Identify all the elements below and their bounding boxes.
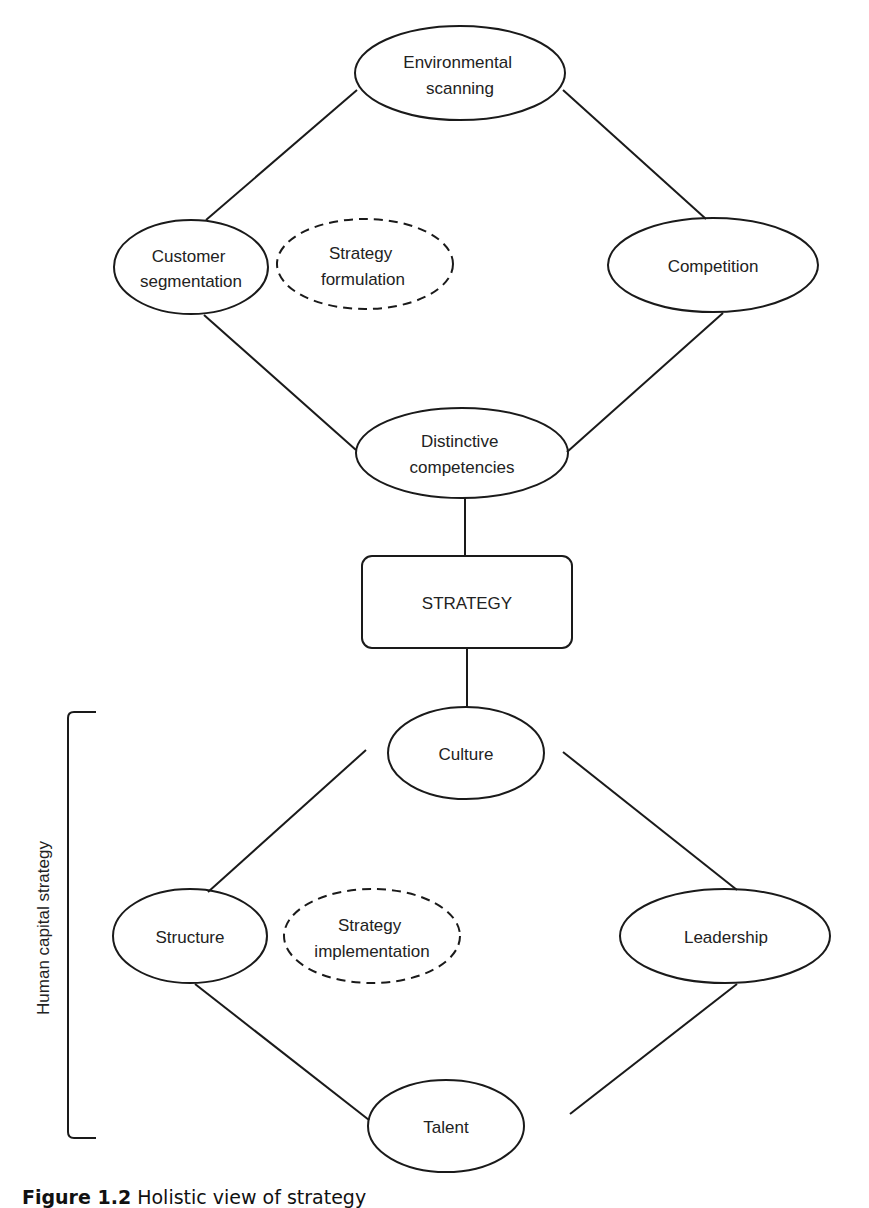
connector-line — [195, 984, 369, 1120]
label-distinctive-competencies-2: competencies — [410, 458, 515, 477]
connector-line — [204, 315, 356, 450]
node-strategy-implementation — [284, 889, 460, 983]
label-environmental-scanning-1: Environmental — [403, 53, 512, 72]
svg-text:Culture: Culture — [439, 745, 494, 764]
node-strategy-formulation — [277, 219, 453, 309]
connector-line — [563, 90, 706, 219]
svg-text:Talent: Talent — [423, 1118, 469, 1137]
connector-line — [563, 752, 737, 890]
node-environmental-scanning — [355, 26, 565, 120]
label-human-capital-strategy: Human capital strategy — [34, 841, 53, 1015]
svg-text:Human capital strategy: Human capital strategy — [34, 841, 53, 1015]
label-competition: Competition — [668, 257, 759, 276]
label-strategy-implementation-2: implementation — [314, 942, 429, 961]
caption-label: Figure 1.2 — [22, 1186, 131, 1208]
connector-line — [567, 313, 723, 452]
connector-line — [570, 984, 737, 1114]
label-customer-segmentation-2: segmentation — [140, 272, 242, 291]
svg-text:Distinctive competencies: Distinctive competencies — [410, 432, 515, 477]
connector-line — [208, 750, 366, 892]
label-culture: Culture — [439, 745, 494, 764]
label-environmental-scanning-2: scanning — [426, 79, 494, 98]
caption-text: Holistic view of strategy — [137, 1186, 366, 1208]
label-leadership: Leadership — [684, 928, 768, 947]
label-strategy: STRATEGY — [422, 594, 512, 613]
label-customer-segmentation-1: Customer — [152, 247, 226, 266]
svg-text:Customer segmentation: Customer segmentation — [140, 247, 242, 291]
human-capital-bracket — [68, 712, 96, 1138]
svg-text:Strategy formulation: Strategy formulation — [321, 244, 405, 289]
node-customer-segmentation — [114, 220, 268, 314]
svg-text:Strategy implementation: Strategy implementation — [314, 916, 429, 961]
svg-text:Competition: Competition — [668, 257, 759, 276]
svg-text:STRATEGY: STRATEGY — [422, 594, 512, 613]
connector-line — [206, 90, 357, 220]
svg-text:Leadership: Leadership — [684, 928, 768, 947]
label-strategy-formulation-1: Strategy — [329, 244, 393, 263]
label-strategy-implementation-1: Strategy — [338, 916, 402, 935]
node-distinctive-competencies — [356, 408, 568, 498]
svg-text:Environmental scanning: Environmental scanning — [403, 53, 516, 98]
svg-text:Structure: Structure — [156, 928, 225, 947]
label-distinctive-competencies-1: Distinctive — [421, 432, 498, 451]
label-structure: Structure — [156, 928, 225, 947]
label-talent: Talent — [423, 1118, 469, 1137]
label-strategy-formulation-2: formulation — [321, 270, 405, 289]
figure-caption: Figure 1.2 Holistic view of strategy — [22, 1186, 366, 1208]
